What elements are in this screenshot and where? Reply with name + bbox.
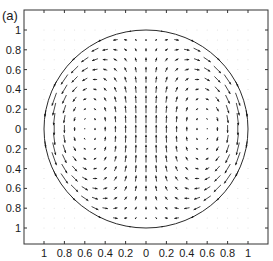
arrow-head	[125, 135, 127, 137]
arrow-head	[186, 69, 189, 71]
y-tick-label: 0.2	[6, 103, 21, 115]
arrow-head	[187, 59, 189, 61]
arrow-head	[227, 111, 229, 114]
arrow-head	[135, 135, 137, 137]
arrow-head	[145, 207, 147, 209]
arrow-head	[135, 196, 137, 199]
quiver-plot: (a) 10.80.60.40.200.20.40.60.81 10.80.60…	[0, 0, 273, 261]
grid-dot	[237, 208, 238, 209]
arrow-head	[155, 145, 157, 147]
y-tick-label: 0	[15, 123, 21, 135]
grid-dot	[207, 228, 208, 229]
x-tick-label: 0.8	[220, 247, 235, 259]
arrow-head	[95, 198, 98, 200]
arrow-head	[52, 103, 54, 106]
grid-dot	[54, 49, 55, 50]
arrow-head	[155, 125, 157, 127]
grid-dot	[237, 188, 238, 189]
arrow-head	[145, 58, 147, 60]
grid-dot	[74, 218, 75, 219]
grid-dot	[64, 30, 65, 31]
arrow-head	[155, 196, 157, 199]
arrow-head	[73, 138, 75, 141]
arrow-head	[165, 176, 167, 179]
arrow-head	[145, 48, 147, 50]
grid-dot	[84, 228, 85, 229]
grid-dot	[237, 39, 238, 40]
grid-dot	[44, 198, 45, 199]
grid-dot	[207, 39, 208, 40]
arrow-head	[145, 175, 147, 177]
y-axis-ticks: 10.80.60.40.200.20.40.60.81	[6, 24, 268, 234]
grid-dot	[44, 39, 45, 40]
grid-dot	[248, 228, 249, 229]
grid-dot	[44, 208, 45, 209]
grid-dot	[54, 59, 55, 60]
arrow-head	[105, 187, 108, 189]
grid-dot	[237, 49, 238, 50]
grid-dot	[44, 30, 45, 31]
arrow-head	[125, 125, 127, 127]
grid-dot	[227, 228, 228, 229]
arrow-head	[207, 138, 209, 139]
arrow-head	[155, 105, 157, 107]
grid-dot	[44, 168, 45, 169]
arrow-head	[104, 147, 106, 150]
arrow-head	[194, 198, 197, 200]
grid-dot	[217, 218, 218, 219]
grid-dot	[176, 30, 177, 31]
grid-dot	[237, 198, 238, 199]
y-tick-label: 0.8	[6, 202, 21, 214]
grid-dot	[44, 188, 45, 189]
arrow-head	[216, 138, 218, 141]
panel-label: (a)	[2, 8, 18, 23]
arrow-head	[145, 145, 147, 147]
arrow-head	[114, 126, 116, 128]
arrow-head	[84, 128, 85, 129]
grid-dot	[217, 39, 218, 40]
x-tick-label: 0.8	[57, 247, 72, 259]
arrow-head	[145, 95, 147, 97]
grid-dot	[248, 218, 249, 219]
arrow-head	[125, 176, 127, 179]
grid-dot	[248, 99, 249, 100]
grid-dot	[44, 69, 45, 70]
grid-dot	[84, 218, 85, 219]
arrow-head	[155, 217, 157, 219]
arrow-head	[176, 126, 178, 128]
grid-dot	[54, 228, 55, 229]
arrow-head	[63, 131, 65, 133]
arrow-head	[114, 116, 116, 118]
arrow-head	[124, 115, 126, 117]
y-tick-label: 0.4	[6, 83, 21, 95]
x-tick-label: 0.2	[118, 247, 133, 259]
grid-dot	[237, 218, 238, 219]
grid-dot	[44, 59, 45, 60]
grid-dot	[248, 79, 249, 80]
grid-dot	[74, 49, 75, 50]
arrow-head	[135, 96, 137, 98]
grid-dot	[95, 30, 96, 31]
grid-dot	[227, 49, 228, 50]
grid-dot	[248, 168, 249, 169]
grid-dot	[217, 49, 218, 50]
grid-dot	[105, 30, 106, 31]
grid-dot	[237, 59, 238, 60]
arrow-head	[145, 115, 147, 117]
arrow-head	[196, 128, 198, 130]
grid-dot	[54, 198, 55, 199]
arrow-head	[63, 111, 65, 114]
arrow-head	[165, 115, 167, 117]
arrow-head	[135, 39, 137, 41]
arrow-head	[135, 155, 137, 157]
arrow-head	[186, 107, 188, 110]
grid-dot	[248, 59, 249, 60]
arrow-head	[145, 76, 147, 78]
grid-dot	[197, 228, 198, 229]
arrow-head	[104, 127, 106, 129]
arrow-head	[216, 119, 218, 122]
arrow-head	[145, 105, 147, 107]
arrow-head	[104, 107, 106, 110]
x-tick-label: 0	[143, 247, 149, 259]
grid-dot	[248, 178, 249, 179]
